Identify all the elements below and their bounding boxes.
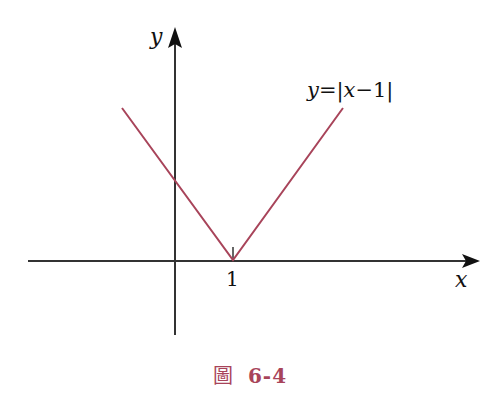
y-axis-label: y xyxy=(149,24,163,49)
figure-canvas: y x 1 y=|x−1| xyxy=(0,0,500,402)
x-tick-label-1: 1 xyxy=(226,267,239,291)
x-axis-label: x xyxy=(455,267,468,292)
function-label: y=|x−1| xyxy=(306,78,393,103)
caption-number: 6-4 xyxy=(248,364,287,388)
function-line xyxy=(122,108,343,260)
caption-prefix: 圖 xyxy=(213,364,234,388)
figure-caption: 圖6-4 xyxy=(0,360,500,389)
